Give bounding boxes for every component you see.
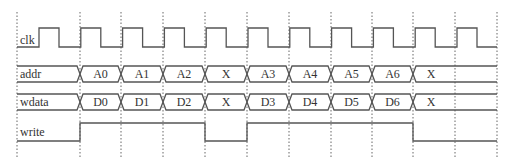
wdata-value-label: D2	[177, 95, 192, 109]
wdata-value-label: D4	[303, 95, 318, 109]
addr-value-label: A2	[177, 67, 192, 81]
wdata-value-label: D1	[135, 95, 150, 109]
signal-label-wdata: wdata	[20, 95, 49, 109]
signal-write	[17, 123, 497, 141]
clk-waveform	[17, 28, 497, 47]
addr-value-label: X	[222, 67, 231, 81]
addr-value-label: A3	[261, 67, 276, 81]
addr-value-label: A5	[344, 67, 359, 81]
signal-label-addr: addr	[20, 67, 41, 81]
addr-value-label: A4	[303, 67, 318, 81]
signal-addr: A0A1A2XA3A4A5A6X	[17, 66, 497, 82]
wdata-value-label: D3	[261, 95, 276, 109]
addr-value-label: A1	[135, 67, 150, 81]
addr-value-label: X	[427, 67, 436, 81]
signal-label-clk: clk	[20, 33, 35, 47]
time-gridlines	[17, 12, 497, 158]
wdata-value-label: D6	[385, 95, 400, 109]
signal-clk	[17, 28, 497, 47]
signal-labels: clkaddrwdatawrite	[20, 33, 49, 139]
waveforms: A0A1A2XA3A4A5A6XD0D1D2XD3D4D5D6X	[17, 28, 497, 141]
write-waveform	[17, 123, 497, 141]
wdata-value-label: D0	[93, 95, 108, 109]
signal-label-write: write	[20, 125, 45, 139]
wdata-value-label: X	[427, 95, 436, 109]
timing-diagram: A0A1A2XA3A4A5A6XD0D1D2XD3D4D5D6X clkaddr…	[0, 0, 513, 161]
addr-value-label: A0	[93, 67, 108, 81]
addr-value-label: A6	[385, 67, 400, 81]
wdata-value-label: D5	[344, 95, 359, 109]
signal-wdata: D0D1D2XD3D4D5D6X	[17, 94, 497, 110]
wdata-value-label: X	[222, 95, 231, 109]
